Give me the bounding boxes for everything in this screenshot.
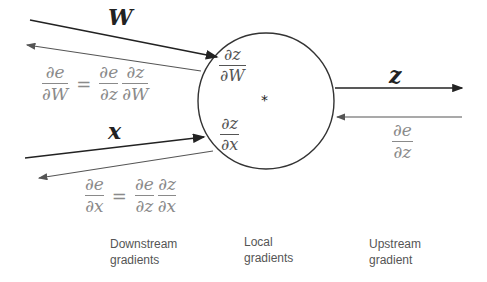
w-label: W (108, 4, 133, 30)
caption-upstream: Upstream gradient (369, 236, 421, 268)
numerator: ∂z (126, 64, 144, 81)
caption-line: Downstream (110, 236, 177, 252)
caption-line: Local (244, 234, 293, 250)
denominator: ∂W (42, 86, 68, 103)
denominator: ∂W (122, 86, 148, 103)
backprop-diagram: W x z * ∂z ∂W ∂z ∂x ∂e ∂z ∂e ∂W = ∂e ∂z … (0, 0, 487, 282)
numerator: ∂e (392, 122, 413, 139)
x-label: x (108, 118, 121, 144)
denominator: ∂z (136, 198, 154, 215)
dz-dw-fraction: ∂z ∂W (122, 64, 148, 103)
numerator: ∂e (135, 176, 154, 193)
equals-sign: = (112, 185, 127, 206)
de-dx-fraction: ∂e ∂x (85, 176, 104, 215)
caption-line: gradients (110, 252, 177, 268)
numerator: ∂e (46, 64, 65, 81)
multiply-operator: * (261, 92, 268, 108)
caption-line: gradients (244, 250, 293, 266)
numerator: ∂e (99, 64, 118, 81)
denominator: ∂z (100, 86, 118, 103)
upstream-gradient-de-dz: ∂e ∂z (392, 122, 413, 161)
denominator: ∂z (393, 144, 413, 161)
denominator: ∂x (220, 137, 239, 153)
numerator: ∂z (223, 47, 242, 63)
caption-line: Upstream (369, 236, 421, 252)
caption-local: Local gradients (244, 234, 293, 266)
denominator: ∂x (158, 198, 176, 215)
x-backward-arrow (39, 151, 213, 178)
z-label: z (389, 62, 402, 88)
local-gradient-dz-dw: ∂z ∂W (219, 47, 246, 84)
numerator: ∂e (85, 176, 104, 193)
downstream-gradient-x-equation: ∂e ∂x = ∂e ∂z ∂z ∂x (85, 176, 176, 215)
local-gradient-dz-dx: ∂z ∂x (220, 116, 239, 153)
equals-sign: = (76, 73, 91, 94)
dz-dx-fraction: ∂z ∂x (158, 176, 176, 215)
numerator: ∂z (158, 176, 176, 193)
de-dw-fraction: ∂e ∂W (42, 64, 68, 103)
denominator: ∂W (219, 68, 246, 84)
denominator: ∂x (85, 198, 103, 215)
de-dz-fraction: ∂e ∂z (99, 64, 118, 103)
numerator: ∂z (220, 116, 239, 132)
caption-line: gradient (369, 252, 421, 268)
downstream-gradient-w-equation: ∂e ∂W = ∂e ∂z ∂z ∂W (42, 64, 148, 103)
de-dz-fraction: ∂e ∂z (135, 176, 154, 215)
caption-downstream: Downstream gradients (110, 236, 177, 268)
